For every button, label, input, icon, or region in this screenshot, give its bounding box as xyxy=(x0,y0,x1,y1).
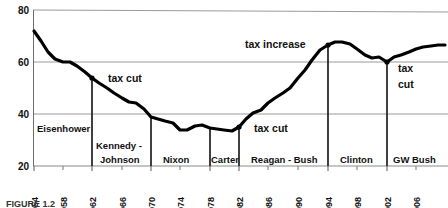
annotation-tax-increase-1994: tax increase xyxy=(245,38,306,50)
x-tick-label-1978: 1978 xyxy=(206,197,216,208)
x-tick-label-1982: 1982 xyxy=(235,197,245,208)
era-label-carter: Carter xyxy=(211,154,239,165)
x-tick-label-1990: 1990 xyxy=(294,197,304,208)
figure-caption: FIGURE 1.2 xyxy=(6,199,55,208)
era-label-gw-bush: GW Bush xyxy=(393,154,436,165)
annotation-tax-cut-1982: tax cut xyxy=(254,122,288,134)
x-tick-label-1974: 1974 xyxy=(176,197,186,208)
x-tick-label-2002: 2002 xyxy=(383,197,393,208)
annotation-tax-cut-2002-line2: cut xyxy=(398,78,414,90)
x-tick-label-1998: 1998 xyxy=(353,197,363,208)
x-tick-label-1970: 1970 xyxy=(147,197,157,208)
y-tick-label-20: 20 xyxy=(18,161,30,172)
era-label-reagan-bush: Reagan - Bush xyxy=(251,154,318,165)
marker-tax-cut-1982 xyxy=(236,124,241,129)
chart-svg: 80 60 40 20 1954 1958 1962 1 xyxy=(0,0,448,208)
y-tick-label-60: 60 xyxy=(18,57,30,68)
x-tick-label-1962: 1962 xyxy=(88,197,98,208)
x-tick-label-1958: 1958 xyxy=(59,197,69,208)
x-tick-label-1966: 1966 xyxy=(118,197,128,208)
x-tick-label-1986: 1986 xyxy=(264,197,274,208)
marker-tax-increase-1994 xyxy=(325,42,330,47)
annotation-tax-cut-2002-line1: tax xyxy=(398,62,413,74)
y-tick-label-80: 80 xyxy=(18,5,30,16)
marker-tax-cut-2002 xyxy=(384,59,389,64)
annotation-tax-cut-1962: tax cut xyxy=(108,72,142,84)
era-label-eisenhower: Eisenhower xyxy=(37,123,91,134)
era-label-kennedy-line2: Johnson xyxy=(100,154,140,165)
marker-tax-cut-1962 xyxy=(89,75,94,80)
era-label-clinton: Clinton xyxy=(340,154,373,165)
x-tick-label-2006: 2006 xyxy=(412,197,422,208)
y-tick-label-40: 40 xyxy=(18,109,30,120)
era-label-nixon: Nixon xyxy=(163,154,190,165)
era-label-kennedy-line1: Kennedy - xyxy=(96,140,142,151)
chart-background xyxy=(0,0,448,208)
chart-figure: 80 60 40 20 1954 1958 1962 1 xyxy=(0,0,448,208)
x-tick-label-1994: 1994 xyxy=(324,197,334,208)
